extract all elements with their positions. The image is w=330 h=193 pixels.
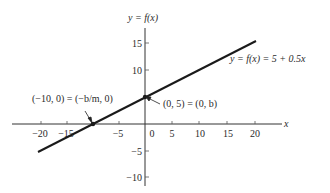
- line-chart: −20 −15 −5 0 5 10 15 20 15 10 −5 −10 y =…: [0, 0, 330, 193]
- x-tick-label: 10: [195, 128, 205, 139]
- y-tick-label: −10: [126, 172, 142, 183]
- y-tick-label: −5: [131, 146, 142, 157]
- y-intercept-label: (0, 5) = (0, b): [163, 98, 217, 110]
- x-tick-label: −20: [32, 128, 48, 139]
- line-equation-label: y = f(x) = 5 + 0.5x: [229, 53, 306, 65]
- y-tick-labels: 15 10 −5 −10: [126, 38, 142, 183]
- x-tick-label: 20: [250, 128, 260, 139]
- y-ticks: [145, 43, 149, 177]
- x-axis-label: x: [283, 118, 289, 129]
- x-tick-label: 0: [150, 128, 155, 139]
- y-tick-label: 15: [132, 38, 142, 49]
- y-tick-label: 10: [132, 65, 142, 76]
- x-tick-label: 15: [223, 128, 233, 139]
- x-intercept-label: (−10, 0) = (−b/m, 0): [32, 93, 113, 105]
- x-tick-label: 5: [170, 128, 175, 139]
- x-tick-label: −5: [113, 128, 124, 139]
- y-axis-label: y = f(x): [127, 12, 159, 24]
